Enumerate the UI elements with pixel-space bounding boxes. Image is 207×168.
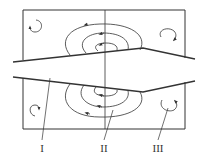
label-zone-1: I xyxy=(40,142,44,154)
corner-eddies xyxy=(30,20,177,116)
label-zone-3: III xyxy=(153,142,164,154)
label-zone-2: II xyxy=(100,142,108,154)
lower-vortex xyxy=(65,84,141,117)
jet-boundaries xyxy=(13,48,195,92)
chamber-outline xyxy=(23,10,185,129)
flow-diagram: I II III xyxy=(0,0,207,168)
upper-vortex xyxy=(65,24,141,55)
diagram-canvas: I II III xyxy=(0,0,207,168)
